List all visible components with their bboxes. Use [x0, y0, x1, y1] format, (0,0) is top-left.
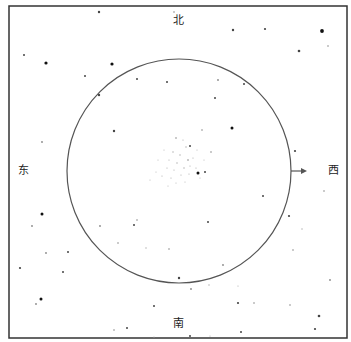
- star: [45, 252, 47, 254]
- star: [288, 215, 290, 217]
- star: [153, 336, 154, 337]
- star: [289, 304, 291, 306]
- star: [31, 225, 33, 227]
- north-label: 北: [173, 15, 184, 26]
- star: [294, 150, 296, 152]
- star: [185, 146, 186, 147]
- star: [207, 221, 209, 223]
- star: [262, 195, 264, 197]
- star: [298, 50, 301, 53]
- star: [136, 219, 138, 221]
- star: [67, 251, 69, 253]
- star: [253, 302, 255, 304]
- star-chart: [0, 0, 351, 342]
- star: [164, 150, 165, 151]
- star: [237, 285, 238, 286]
- star: [40, 298, 43, 301]
- west-label: 西: [328, 165, 339, 176]
- star: [126, 327, 128, 329]
- star: [182, 139, 183, 140]
- star: [41, 213, 44, 216]
- star: [176, 183, 177, 184]
- star-field: [19, 11, 331, 338]
- east-label: 东: [18, 165, 29, 176]
- star: [117, 242, 119, 244]
- star: [180, 174, 181, 175]
- star: [204, 171, 206, 173]
- star: [200, 178, 201, 179]
- star: [173, 169, 174, 170]
- star: [240, 331, 242, 333]
- star: [44, 61, 47, 64]
- south-label: 南: [173, 318, 184, 329]
- star: [264, 28, 266, 30]
- star: [113, 130, 115, 132]
- star: [153, 305, 155, 307]
- star: [172, 151, 173, 152]
- star: [329, 279, 331, 281]
- star: [35, 303, 37, 305]
- star: [168, 248, 170, 250]
- star: [156, 172, 157, 173]
- star: [133, 224, 135, 226]
- star: [209, 335, 210, 336]
- star: [214, 97, 216, 99]
- star: [176, 162, 177, 163]
- star: [243, 83, 245, 85]
- star: [62, 271, 64, 273]
- star: [183, 167, 184, 168]
- star: [161, 175, 162, 176]
- arrow-right-icon: [301, 168, 307, 174]
- star: [166, 81, 168, 83]
- star: [231, 127, 234, 130]
- star: [204, 160, 205, 161]
- star: [190, 288, 192, 290]
- star: [318, 315, 321, 318]
- star: [292, 249, 294, 251]
- star: [188, 173, 189, 174]
- star: [41, 141, 43, 143]
- star: [170, 177, 171, 178]
- star: [178, 277, 180, 279]
- star: [150, 180, 151, 181]
- star: [110, 62, 113, 65]
- star: [168, 186, 169, 187]
- star: [136, 78, 138, 80]
- star: [23, 54, 25, 56]
- star-cluster: [150, 137, 205, 186]
- star: [301, 228, 302, 229]
- star: [145, 247, 146, 248]
- star: [189, 145, 191, 147]
- star: [168, 159, 169, 160]
- star: [189, 335, 191, 337]
- star: [179, 154, 180, 155]
- star: [195, 167, 196, 168]
- star: [189, 165, 190, 166]
- star: [99, 225, 101, 227]
- star: [197, 150, 198, 151]
- star: [158, 160, 159, 161]
- star: [320, 29, 324, 33]
- star: [175, 137, 177, 139]
- star: [187, 159, 189, 161]
- star: [166, 167, 167, 168]
- star: [323, 190, 325, 192]
- star: [208, 284, 209, 285]
- star: [19, 267, 21, 269]
- field-of-view-circle: [67, 59, 291, 283]
- star: [192, 157, 193, 158]
- star: [197, 172, 200, 175]
- chart-frame: [9, 6, 347, 338]
- star: [222, 264, 224, 266]
- star: [84, 75, 86, 77]
- star: [232, 29, 234, 31]
- star: [185, 182, 186, 183]
- star: [201, 129, 203, 131]
- star: [327, 45, 329, 47]
- star: [237, 302, 239, 304]
- star: [210, 151, 212, 153]
- star: [217, 79, 219, 81]
- star: [98, 11, 100, 13]
- star: [173, 11, 175, 13]
- star: [113, 329, 115, 331]
